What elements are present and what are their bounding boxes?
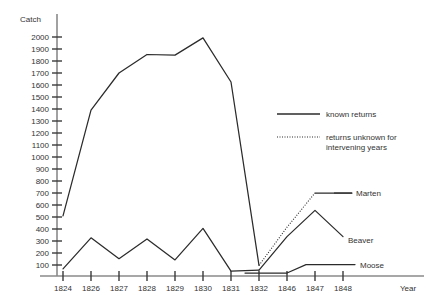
series-label-marten: Marten — [356, 189, 381, 198]
y-tick-label-200: 200 — [36, 249, 50, 258]
y-tick-label-1400: 1400 — [31, 105, 49, 114]
y-tick-label-1900: 1900 — [31, 45, 49, 54]
y-axis-title: Catch — [20, 15, 41, 24]
legend-label-known-returns: known returns — [326, 110, 376, 119]
series-label-beaver: Beaver — [348, 236, 374, 245]
x-tick-label-1829: 1829 — [166, 284, 184, 293]
y-tick-label-1000: 1000 — [31, 153, 49, 162]
chart-canvas: Catch 2000 1900 1800 1700 1600 1500 1400… — [0, 0, 433, 303]
x-tick-label-1848: 1848 — [334, 284, 352, 293]
x-tick-label-1827: 1827 — [110, 284, 128, 293]
y-tick-label-1300: 1300 — [31, 117, 49, 126]
series-line-marten-gap — [259, 193, 315, 265]
y-tick-label-1800: 1800 — [31, 57, 49, 66]
x-tick-label-1832: 1832 — [250, 284, 268, 293]
series-line-moose — [245, 265, 355, 273]
x-tick-label-1846: 1846 — [278, 284, 296, 293]
y-tick-label-500: 500 — [36, 213, 50, 222]
y-tick-label-100: 100 — [36, 261, 50, 270]
y-tick-label-1500: 1500 — [31, 93, 49, 102]
y-tick-label-400: 400 — [36, 225, 50, 234]
series-line-beaver — [63, 228, 259, 271]
x-tick-label-1826: 1826 — [82, 284, 100, 293]
y-tick-label-800: 800 — [36, 177, 50, 186]
y-tick-label-1700: 1700 — [31, 69, 49, 78]
x-axis-ticks: 1824 1826 1827 1828 1829 1830 1831 1832 … — [54, 271, 352, 293]
y-tick-label-900: 900 — [36, 165, 50, 174]
y-tick-label-1600: 1600 — [31, 81, 49, 90]
y-tick-label-300: 300 — [36, 237, 50, 246]
x-tick-label-1824: 1824 — [54, 284, 72, 293]
x-axis-title: Year — [400, 284, 417, 293]
x-tick-label-1830: 1830 — [194, 284, 212, 293]
y-tick-label-700: 700 — [36, 189, 50, 198]
series-line-marten — [63, 38, 259, 266]
chart-legend: known returns returns unknown for interv… — [277, 110, 397, 152]
legend-label-unknown-returns-line2: intervening years — [326, 143, 387, 152]
series-line-beaver-late — [259, 210, 343, 270]
x-tick-label-1847: 1847 — [306, 284, 324, 293]
y-tick-label-1200: 1200 — [31, 129, 49, 138]
y-tick-label-1100: 1100 — [32, 141, 50, 150]
legend-label-unknown-returns-line1: returns unknown for — [326, 133, 397, 142]
x-tick-label-1831: 1831 — [222, 284, 240, 293]
x-tick-label-1828: 1828 — [138, 284, 156, 293]
y-tick-label-600: 600 — [36, 201, 50, 210]
catch-by-year-line-chart: Catch 2000 1900 1800 1700 1600 1500 1400… — [0, 0, 433, 303]
y-tick-label-2000: 2000 — [31, 33, 49, 42]
series-label-moose: Moose — [360, 261, 385, 270]
